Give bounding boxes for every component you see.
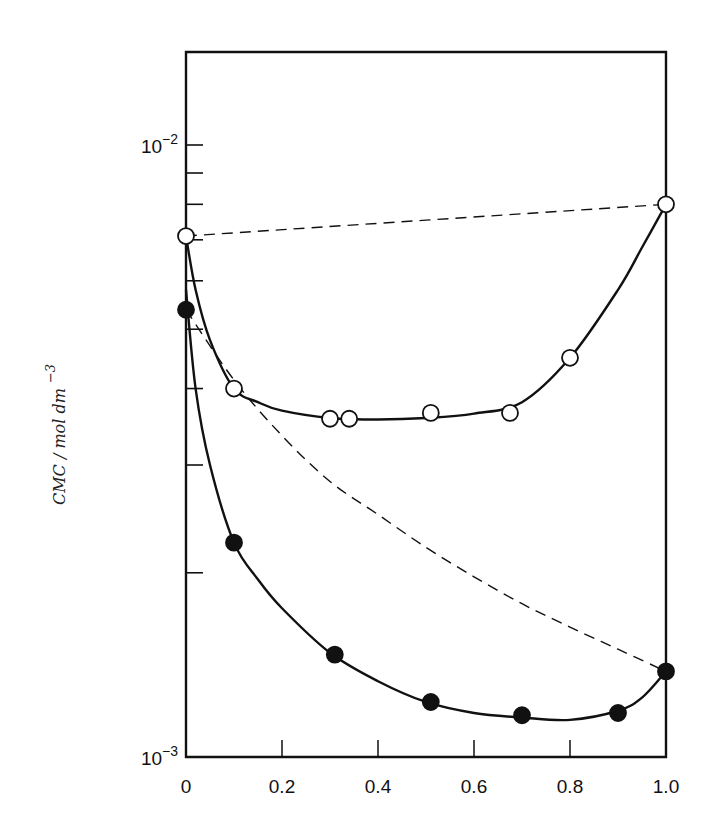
y-tick-label: 10−2 — [141, 131, 178, 157]
filled-circle-marker — [178, 302, 194, 318]
open-circle-marker — [658, 196, 674, 212]
filled-circle-marker — [658, 663, 674, 679]
open-circle-marker — [226, 381, 242, 397]
filled-circle-marker — [514, 707, 530, 723]
open-circle-marker — [178, 228, 194, 244]
data-markers — [178, 196, 674, 723]
fitted-curves — [186, 204, 666, 720]
y-tick-label: 10−3 — [141, 743, 178, 769]
filled-circle-marker — [327, 647, 343, 663]
lower-fit-curve — [186, 290, 666, 720]
ideal-curve — [186, 310, 666, 672]
x-tick-label: 0.4 — [365, 776, 392, 797]
filled-circle-marker — [423, 694, 439, 710]
svg-text:CMC / mol dm −3: CMC / mol dm −3 — [43, 364, 69, 505]
y-axis-label: CMC / mol dm −3 — [43, 364, 69, 505]
x-axis-ticks: 00.20.40.60.81.0 — [181, 740, 680, 797]
filled-circle-marker — [226, 535, 242, 551]
x-tick-label: 0.8 — [557, 776, 583, 797]
plot-frame — [186, 52, 666, 757]
open-circle-marker — [322, 411, 338, 427]
open-circle-marker — [423, 405, 439, 421]
cmc-chart: 10−210−3 00.20.40.60.81.0 CMC / mol dm −… — [0, 0, 722, 840]
y-axis-label-main: CMC / mol dm — [50, 388, 69, 505]
x-tick-label: 0 — [181, 776, 192, 797]
open-circle-marker — [341, 411, 357, 427]
filled-circle-marker — [610, 705, 626, 721]
x-tick-label: 0.2 — [269, 776, 295, 797]
x-tick-label: 0.6 — [461, 776, 487, 797]
y-axis-label-exponent: −3 — [43, 364, 58, 383]
axes-box — [186, 52, 666, 757]
x-tick-label: 1.0 — [653, 776, 679, 797]
upper-fit-curve — [186, 204, 666, 419]
open-circle-marker — [502, 405, 518, 421]
ideal-mixing-curves — [186, 204, 666, 671]
open-circle-marker — [562, 350, 578, 366]
y-axis-ticks: 10−210−3 — [141, 131, 203, 769]
ideal-curve — [186, 204, 666, 236]
